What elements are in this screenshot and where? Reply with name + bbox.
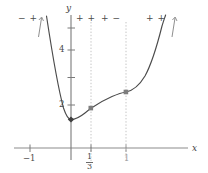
left-trend-arrow <box>39 18 42 37</box>
x-tick-label-one-third: 1 3 <box>86 153 93 172</box>
y-tick-label-two: 2 <box>59 100 64 109</box>
inflection-point-one <box>124 90 129 95</box>
x-tick-label-one: 1 <box>124 154 129 163</box>
x-tick-label-neg-one: −1 <box>23 154 36 163</box>
sign-label-left-of-origin: − + <box>18 14 38 23</box>
graph-figure: y x −1 1 3 1 2 4 − + + + + − + + <box>0 0 208 173</box>
minimum-point <box>68 117 74 123</box>
y-tick-label-four: 4 <box>59 45 64 54</box>
inflection-point-one-third <box>89 106 94 111</box>
y-axis-label: y <box>66 4 71 13</box>
x-axis-label: x <box>192 144 197 153</box>
sign-label-right-of-one: + + <box>146 14 166 23</box>
graph-canvas <box>0 0 208 173</box>
fraction-numerator: 1 <box>86 153 93 161</box>
fraction-denominator: 3 <box>86 163 93 171</box>
right-trend-arrow <box>172 18 175 37</box>
sign-label-third-to-one: + − <box>101 14 121 23</box>
sign-label-origin-to-third: + + <box>76 14 96 23</box>
